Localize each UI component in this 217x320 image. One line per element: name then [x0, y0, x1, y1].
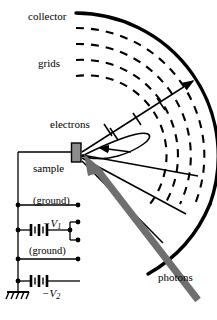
label-voltage-2: −V2	[42, 288, 60, 301]
sample-block	[72, 143, 82, 162]
label-collector: collector	[28, 11, 66, 22]
battery-v2	[31, 275, 47, 287]
label-voltage-1-subscript: 1	[57, 222, 61, 231]
label-voltage-2-main: −V	[42, 287, 56, 299]
label-voltage-1-main: −V	[43, 217, 57, 229]
label-grids: grids	[38, 58, 60, 69]
grid-arc-1	[76, 28, 204, 204]
label-sample: sample	[33, 163, 64, 174]
electron-trajectories	[82, 81, 198, 243]
earth-ground-symbol	[6, 292, 29, 299]
label-ground-upper: (ground)	[33, 196, 70, 207]
label-ground-lower: (ground)	[29, 246, 66, 257]
photoemission-analyzer-diagram: collector grids electrons sample (ground…	[0, 0, 217, 320]
label-voltage-2-subscript: 2	[56, 292, 60, 301]
label-electrons: electrons	[50, 119, 90, 130]
junction-dots	[16, 203, 81, 284]
label-voltage-1: −V1	[43, 218, 61, 231]
grid-arc-4	[76, 75, 167, 204]
label-photons: photons	[158, 272, 193, 283]
grid-arcs	[76, 28, 204, 204]
